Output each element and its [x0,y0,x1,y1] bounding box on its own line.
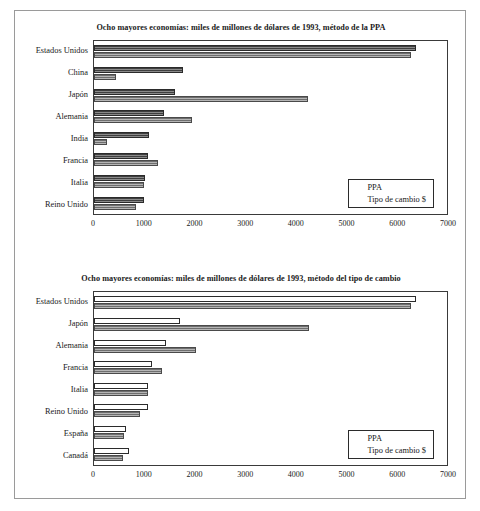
chart-1-category-label: Italia [15,171,93,193]
chart-1-plot-area: PPA Tipo de cambio $ [93,40,448,215]
bar [94,390,148,396]
axis-tick-label: 3000 [237,219,253,228]
axis-tick-label: 2000 [186,219,202,228]
chart-2-category-label: Estados Unidos [15,291,93,313]
chart-1-title: Ocho mayores economías: miles de millone… [15,22,467,33]
bar [94,455,123,461]
bar [94,139,107,145]
bar-group [94,292,447,314]
bar [94,153,148,159]
chart-2-category-label: Francia [15,357,93,379]
bar-group [94,335,447,357]
bar [94,296,416,302]
legend-entry: Tipo de cambio $ [353,446,426,455]
legend-label: Tipo de cambio $ [367,195,426,204]
bar [94,160,158,166]
axis-tick-label: 6000 [389,219,405,228]
chart-2-plot-area: PPA Tipo de cambio $ [93,291,448,466]
chart-2-category-label: Japón [15,313,93,335]
axis-tick-label: 5000 [339,219,355,228]
bar [94,361,152,367]
axis-tick-label: 1000 [136,470,152,479]
chart-2-category-label: Alemania [15,335,93,357]
axis-tick-label: 4000 [288,219,304,228]
chart-1-value-axis: 01000200030004000500060007000 [93,215,448,233]
bar [94,347,196,353]
legend-entry: PPA [353,434,426,443]
chart-1-category-axis: Estados Unidos China Japón Alemania Indi… [15,40,93,215]
bar [94,182,144,188]
page-border: Ocho mayores economías: miles de millone… [14,10,466,499]
bar [94,96,308,102]
chart-2-category-label: Reino Unido [15,400,93,422]
chart-2-category-label: Canadá [15,444,93,466]
legend-swatch-exchange-rate-icon [353,446,362,455]
chart-1-category-label: China [15,62,93,84]
bar [94,117,192,123]
chart-1-category-label: Francia [15,149,93,171]
chart-1-plot-wrapper: Estados Unidos China Japón Alemania Indi… [15,40,467,215]
bar-group [94,400,447,422]
legend-entry: Tipo de cambio $ [353,195,426,204]
bar [94,110,164,116]
bar [94,318,180,324]
bar [94,67,183,73]
chart-1-category-label: Alemania [15,106,93,128]
legend-swatch-exchange-rate-icon [353,195,362,204]
chart-2-category-label: España [15,422,93,444]
bar-group [94,63,447,85]
bar [94,448,129,454]
bar [94,74,116,80]
chart-ppa-method: Ocho mayores economías: miles de millone… [15,13,467,257]
legend-label: Tipo de cambio $ [367,446,426,455]
chart-2-plot-wrapper: Estados Unidos Japón Alemania Francia It… [15,291,467,466]
chart-2-category-label: Italia [15,379,93,401]
bar [94,197,144,203]
chart-2-legend: PPA Tipo de cambio $ [348,430,434,459]
chart-1-category-label: Reino Unido [15,193,93,215]
bar [94,411,140,417]
legend-label: PPA [367,183,382,192]
bar [94,340,166,346]
bar [94,368,162,374]
bar [94,404,148,410]
bar [94,204,136,210]
bar [94,132,149,138]
bar-group [94,106,447,128]
legend-label: PPA [367,434,382,443]
bar [94,52,411,58]
bar [94,89,175,95]
bar [94,303,411,309]
axis-tick-label: 7000 [440,470,456,479]
chart-1-category-label: Japón [15,84,93,106]
axis-tick-label: 0 [91,219,95,228]
chart-1-category-label: Estados Unidos [15,40,93,62]
axis-tick-label: 3000 [237,470,253,479]
chart-1-legend: PPA Tipo de cambio $ [348,179,434,208]
axis-tick-label: 4000 [288,470,304,479]
bar-group [94,314,447,336]
bar-group [94,84,447,106]
chart-exchange-rate-method: Ocho mayores economías: miles de millone… [15,259,467,498]
axis-tick-label: 6000 [389,470,405,479]
bar-group [94,128,447,150]
bar [94,433,124,439]
bar-group [94,149,447,171]
legend-swatch-ppa-icon [353,434,362,443]
bar-group [94,357,447,379]
chart-2-value-axis: 01000200030004000500060007000 [93,466,448,484]
axis-tick-label: 7000 [440,219,456,228]
chart-1-category-label: India [15,128,93,150]
legend-swatch-ppa-icon [353,183,362,192]
axis-tick-label: 2000 [186,470,202,479]
bar [94,325,309,331]
chart-2-category-axis: Estados Unidos Japón Alemania Francia It… [15,291,93,466]
bar [94,426,126,432]
legend-entry: PPA [353,183,426,192]
axis-tick-label: 5000 [339,470,355,479]
bar [94,175,145,181]
bar-group [94,379,447,401]
bar [94,45,416,51]
axis-tick-label: 0 [91,470,95,479]
axis-tick-label: 1000 [136,219,152,228]
